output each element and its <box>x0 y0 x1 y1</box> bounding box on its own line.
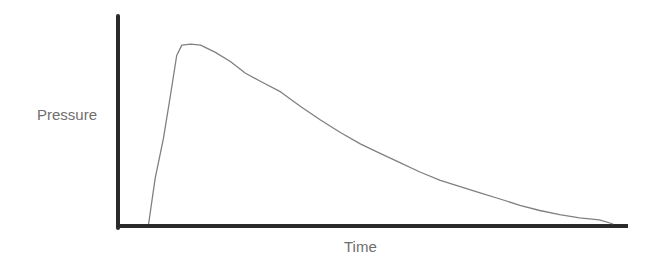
y-axis-label: Pressure <box>37 106 97 123</box>
pressure-curve <box>149 44 614 224</box>
plot-area <box>0 0 659 269</box>
pressure-time-chart: Pressure Time <box>0 0 659 269</box>
x-axis-label: Time <box>344 238 377 255</box>
